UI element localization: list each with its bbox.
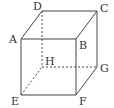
label-H: H	[45, 55, 55, 68]
edge-FG	[76, 67, 97, 95]
edge-BC	[76, 11, 97, 39]
label-C: C	[100, 2, 108, 15]
label-G: G	[100, 62, 109, 75]
label-E: E	[11, 95, 19, 108]
label-D: D	[33, 0, 42, 13]
cube-diagram: A B C D E F G H	[0, 0, 114, 108]
edge-DA	[21, 11, 42, 39]
cube-svg: A B C D E F G H	[0, 0, 114, 108]
label-F: F	[79, 95, 87, 108]
label-B: B	[79, 39, 87, 52]
label-A: A	[8, 33, 18, 46]
solid-edges	[21, 11, 97, 95]
edge-EH	[21, 67, 42, 95]
